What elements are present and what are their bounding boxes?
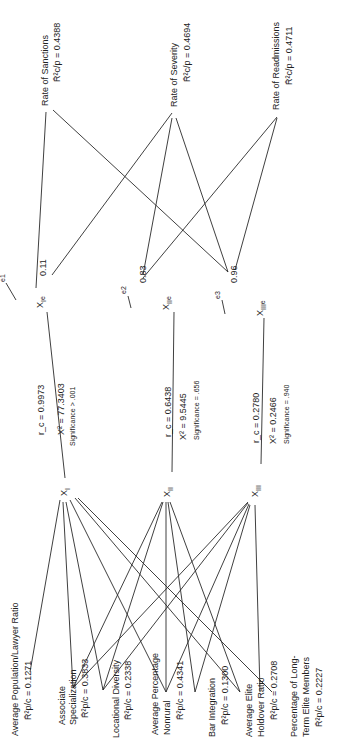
outcome-labels: Rate of Sanctions R̄²c/p = 0.4388 Rate o… <box>40 21 294 110</box>
error-value: 0.96 <box>229 265 239 283</box>
variate-node: XIe <box>35 296 47 308</box>
predictor-stat: R̄²p/c = 0.1300 <box>220 666 230 725</box>
predictor-label: Percentage of Long- <box>289 655 299 737</box>
predictor-stat: R̄²p/c = 0.4341 <box>175 661 185 720</box>
predictor-label: Specialization <box>68 669 78 725</box>
rc-value: r_c = 0.9973 <box>36 385 46 435</box>
predictor-stat: R̄²p/c = 0.1271 <box>23 661 33 720</box>
predictor-label: Holdover Ratio <box>256 677 266 737</box>
variate-node: XII <box>162 487 174 497</box>
error-label: e2 <box>120 286 127 294</box>
error-value: 0.11 <box>38 259 48 276</box>
predictor-variates: XI XII XIII <box>59 485 262 497</box>
outcome-stat: R̄²c/p = 0.4388 <box>52 23 62 82</box>
error-value: 0.83 <box>138 265 148 283</box>
outcome-label: Rate of Severity <box>169 42 179 107</box>
variate-node: XIII <box>250 485 262 497</box>
predictor-labels: Average Population/Lawyer Ratio R̄²p/c =… <box>10 603 324 738</box>
variate-node: XIIIe <box>255 300 267 316</box>
predictor-label: Average Elite <box>244 684 254 737</box>
canonical-correlation-diagram: Rate of Sanctions R̄²c/p = 0.4388 Rate o… <box>0 0 339 738</box>
error-label: e3 <box>214 291 221 299</box>
significance: Significance > .001 <box>69 387 77 446</box>
predictor-label: Nonrural <box>162 700 172 735</box>
outcome-links <box>36 110 277 288</box>
predictor-label: Locational Diversity <box>111 659 121 738</box>
predictor-label: Associate <box>57 686 67 725</box>
outcome-label: Rate of Sanctions <box>40 34 50 106</box>
canonical-stats: r_c = 0.9973 X² = 77.3403 Significance >… <box>36 381 291 446</box>
rc-value: r_c = 0.2780 <box>251 393 261 443</box>
variate-node: XIIe <box>161 296 173 310</box>
canonical-links <box>47 312 264 478</box>
chi-value: X² = 0.2466 <box>268 397 278 444</box>
predictor-stat: R̄²p/c = 0.3833 <box>80 659 90 718</box>
significance: Significance = .940 <box>283 385 291 444</box>
rc-value: r_c = 0.6438 <box>163 387 173 437</box>
predictor-label: Average Population/Lawyer Ratio <box>10 603 20 736</box>
predictor-label: Term Elite Members <box>301 656 311 737</box>
outcome-stat: R̄²c/p = 0.4711 <box>284 26 294 85</box>
outcome-label: Rate of Readmissions <box>271 21 281 110</box>
significance: Significance = .656 <box>193 381 201 440</box>
predictor-stat: R̄²p/c = 0.2708 <box>269 661 279 720</box>
predictor-label: Average Percentage <box>150 653 160 735</box>
error-label: e1 <box>0 274 6 282</box>
chi-value: X² = 77.3403 <box>56 383 66 435</box>
chi-value: X² = 9.5445 <box>178 393 188 440</box>
variate-node: XI <box>59 488 71 496</box>
criterion-variates: XIe XIIe XIIIe <box>35 296 267 316</box>
error-terms: e1 0.11 e2 0.83 e3 0.96 <box>0 259 239 299</box>
predictor-label: Bar Integration <box>207 678 217 737</box>
predictor-stat: R̄²p/c = 0.2227 <box>314 668 324 727</box>
diagram-svg: Rate of Sanctions R̄²c/p = 0.4388 Rate o… <box>0 0 339 738</box>
outcome-stat: R̄²c/p = 0.4694 <box>182 23 192 82</box>
predictor-stat: R̄²p/c = 0.2338 <box>123 661 133 720</box>
